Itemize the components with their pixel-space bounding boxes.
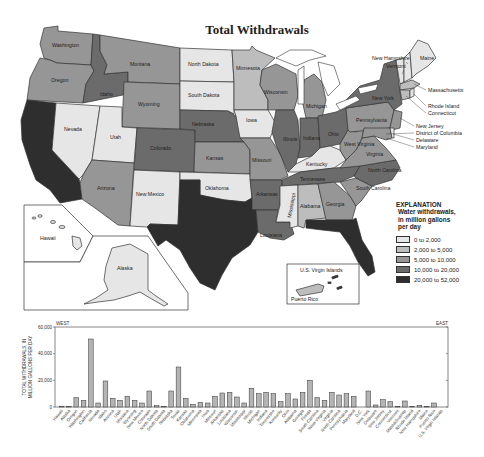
east-annotation: EAST (436, 321, 448, 326)
svg-text:South Carolina: South Carolina (356, 185, 390, 191)
bar (81, 400, 86, 407)
bar (322, 400, 327, 407)
legend: EXPLANATION Water withdrawals, in millio… (396, 201, 484, 285)
y-tick-label: 20,000 (38, 378, 52, 383)
legend-subheading-3: per day (398, 223, 484, 230)
svg-text:New Jersey: New Jersey (416, 123, 444, 129)
svg-text:Delaware: Delaware (416, 137, 438, 143)
svg-text:Minnesota: Minnesota (236, 65, 260, 71)
legend-swatch (396, 246, 410, 253)
legend-subheading-2: in million gallons (398, 216, 484, 223)
bar (154, 406, 159, 407)
legend-item: 20,000 to 52,000 (396, 275, 484, 285)
svg-text:Kentucky: Kentucky (306, 161, 328, 167)
bar (351, 396, 356, 407)
svg-text:Colorado: Colorado (150, 145, 171, 151)
svg-text:Maryland: Maryland (416, 144, 438, 150)
bar (96, 403, 101, 407)
svg-text:North Dakota: North Dakota (188, 61, 219, 67)
bar (147, 391, 152, 407)
legend-swatch (396, 236, 410, 243)
bar (329, 392, 334, 407)
svg-text:District of Columbia: District of Columbia (416, 130, 462, 136)
legend-item: 10,000 to 20,000 (396, 265, 484, 275)
svg-text:North Carolina: North Carolina (368, 167, 402, 173)
state-new-mexico (130, 170, 180, 227)
svg-text:U.S. Virgin Islands: U.S. Virgin Islands (300, 267, 343, 273)
svg-text:Louisiana: Louisiana (260, 232, 282, 238)
bar (132, 400, 137, 407)
svg-text:Iowa: Iowa (246, 117, 257, 123)
withdrawals-bar-chart: 020,00040,00060,000WESTEASTTOTAL WITHDRA… (0, 318, 484, 457)
bar (300, 392, 305, 407)
svg-text:Rhode Island: Rhode Island (428, 103, 459, 109)
svg-text:Virginia: Virginia (366, 151, 383, 157)
svg-text:Hawaii: Hawaii (40, 235, 56, 241)
y-tick-label: 0 (49, 405, 52, 410)
bar (315, 398, 320, 407)
svg-text:Massachusetts: Massachusetts (428, 87, 464, 93)
svg-text:New Mexico: New Mexico (136, 191, 164, 197)
bar (271, 394, 276, 407)
bar (198, 402, 203, 407)
bar (162, 406, 167, 407)
svg-text:Illinois: Illinois (283, 136, 298, 142)
y-tick-label: 40,000 (38, 351, 52, 356)
bar (213, 396, 218, 407)
bar (417, 405, 422, 407)
legend-classes: 0 to 2,000 2,000 to 5,000 5,000 to 10,00… (396, 235, 484, 285)
svg-text:Nebraska: Nebraska (192, 121, 214, 127)
state-arizona (80, 160, 134, 226)
state-connecticut (400, 90, 410, 100)
svg-text:Arizona: Arizona (97, 185, 115, 191)
svg-text:Missouri: Missouri (252, 157, 271, 163)
bar (293, 399, 298, 407)
bar (235, 397, 240, 407)
legend-subheading-1: Water withdrawals, (398, 208, 484, 215)
bar (183, 398, 188, 407)
bar (424, 406, 429, 407)
y-tick-label: 60,000 (38, 325, 52, 330)
bar (169, 391, 174, 407)
svg-text:Nevada: Nevada (64, 126, 82, 132)
legend-item: 0 to 2,000 (396, 235, 484, 245)
bar (308, 380, 313, 407)
lake-michigan (298, 66, 304, 104)
bar (395, 406, 400, 407)
bar (89, 339, 94, 407)
bar (256, 394, 261, 407)
west-annotation: WEST (56, 321, 69, 326)
svg-text:Georgia: Georgia (326, 201, 345, 207)
bar (388, 402, 393, 407)
svg-text:Puerto Rico: Puerto Rico (291, 296, 318, 302)
bar (381, 400, 386, 407)
svg-text:Wyoming: Wyoming (138, 101, 160, 107)
state-rhode-island (410, 88, 414, 98)
legend-swatch (396, 266, 410, 273)
bar (220, 393, 225, 407)
svg-text:Oklahoma: Oklahoma (205, 185, 229, 191)
bar (191, 404, 196, 407)
svg-text:Ohio: Ohio (328, 131, 339, 137)
svg-text:Utah: Utah (110, 134, 121, 140)
state-iowa (234, 110, 276, 138)
bar (59, 406, 64, 407)
svg-text:Pennsylvania: Pennsylvania (356, 117, 387, 123)
bar (432, 403, 437, 407)
bar (140, 403, 145, 407)
bar (118, 400, 123, 407)
svg-text:Connecticut: Connecticut (428, 110, 456, 116)
bar (125, 396, 130, 407)
svg-text:Michigan: Michigan (306, 103, 327, 109)
legend-swatch (396, 256, 410, 263)
svg-text:Alabama: Alabama (300, 203, 321, 209)
bar (110, 398, 115, 407)
y-axis-label: TOTAL WITHDRAWALS, INMILLION GALLONS PER… (22, 336, 33, 398)
svg-text:Montana: Montana (130, 61, 150, 67)
bar (366, 391, 371, 407)
bar (344, 394, 349, 407)
svg-text:Wisconsin: Wisconsin (264, 89, 288, 95)
svg-text:New Hampshire: New Hampshire (372, 55, 410, 61)
bar (227, 392, 232, 407)
bar (278, 402, 283, 407)
